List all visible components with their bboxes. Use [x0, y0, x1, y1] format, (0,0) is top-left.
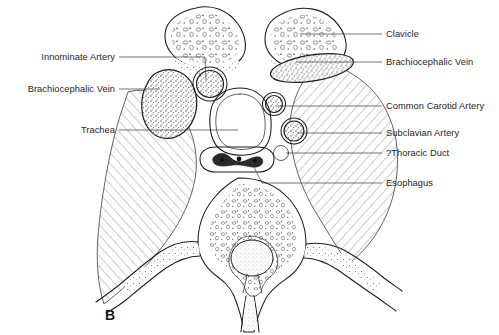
- anatomical-figure-panel: Innominate Artery Brachiocephalic Vein T…: [0, 0, 499, 335]
- label-group-right: Clavicle Brachiocephalic Vein Common Car…: [386, 29, 484, 188]
- label-brachiocephalic-vein-left: Brachiocephalic Vein: [28, 84, 115, 94]
- label-esophagus: Esophagus: [386, 178, 433, 188]
- label-group-left: Innominate Artery Brachiocephalic Vein T…: [28, 52, 116, 135]
- brachiocephalic-vein-left-shape: [142, 70, 197, 139]
- label-brachiocephalic-vein-right: Brachiocephalic Vein: [386, 57, 473, 67]
- panel-letter: B: [105, 307, 115, 323]
- label-thoracic-duct: ?Thoracic Duct: [386, 148, 450, 158]
- spinal-cord: [231, 240, 273, 276]
- subclavian-artery-shape: [281, 118, 307, 144]
- label-common-carotid-artery: Common Carotid Artery: [386, 101, 484, 111]
- anatomy-diagram: Innominate Artery Brachiocephalic Vein T…: [0, 0, 499, 335]
- common-carotid-artery-shape: [263, 93, 286, 116]
- label-innominate-artery: Innominate Artery: [41, 52, 115, 62]
- innominate-artery-shape: [193, 67, 227, 101]
- label-clavicle: Clavicle: [386, 29, 419, 39]
- esophagus-shape: [200, 147, 274, 172]
- label-trachea: Trachea: [81, 125, 116, 135]
- label-subclavian-artery: Subclavian Artery: [386, 128, 459, 138]
- muscle-right-shape: [290, 62, 398, 264]
